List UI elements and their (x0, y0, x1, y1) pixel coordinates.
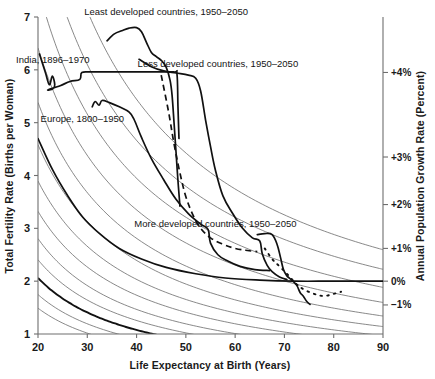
y-tick-label: 1 (24, 328, 30, 340)
y2-tick-label: +1% (391, 243, 411, 254)
series-label: Europe, 1800–1950 (41, 113, 124, 124)
y2-tick-label: −1% (391, 299, 411, 310)
series-label: India, 1896–1970 (16, 54, 89, 65)
y-tick-label: 2 (24, 275, 30, 287)
y-tick-label: 4 (24, 170, 31, 182)
y-tick-label: 6 (24, 64, 30, 76)
series-label: Less developed countries, 1950–2050 (138, 58, 299, 69)
chart-container: 1234567 2030405060708090 +4%+3%+2%+1%0%−… (0, 0, 435, 379)
series-label: Least developed countries, 1950–2050 (84, 6, 248, 17)
series-label: More developed countries, 1950–2050 (134, 218, 296, 229)
x-tick-label: 30 (81, 341, 93, 353)
x-tick-label: 40 (130, 341, 142, 353)
x-tick-label: 80 (328, 341, 340, 353)
x-tick-label: 60 (229, 341, 241, 353)
y-tick-label: 3 (24, 222, 30, 234)
y2-tick-label: +3% (391, 152, 411, 163)
y2-axis-title: Annual Population Growth Rate (Percent) (414, 71, 426, 281)
y2-tick-label: +4% (391, 67, 411, 78)
y2-tick-label: +2% (391, 199, 411, 210)
x-tick-label: 90 (377, 341, 389, 353)
y-tick-label: 5 (24, 117, 30, 129)
y2-tick-label: 0% (391, 276, 406, 287)
y-axis-title: Total Fertility Rate (Births per Woman) (3, 79, 15, 274)
x-tick-label: 20 (32, 341, 44, 353)
x-tick-label: 50 (180, 341, 192, 353)
x-axis-title: Life Expectancy at Birth (Years) (130, 359, 291, 371)
y-tick-label: 7 (24, 11, 30, 23)
fertility-life-expectancy-chart: 1234567 2030405060708090 +4%+3%+2%+1%0%−… (0, 0, 435, 379)
x-tick-label: 70 (278, 341, 290, 353)
